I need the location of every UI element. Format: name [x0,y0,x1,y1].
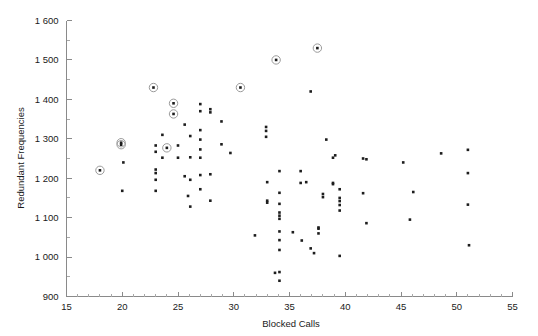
data-point [365,222,368,225]
data-point [317,232,320,235]
data-point [183,123,186,126]
data-point [309,247,312,250]
data-point [199,148,202,151]
data-point [278,211,281,214]
y-tick-label: 1 400 [35,94,59,105]
data-point [172,102,175,105]
data-point [166,147,169,150]
data-point [305,181,308,184]
data-point [154,168,157,171]
x-tick-label: 35 [284,301,295,312]
data-point [338,200,341,203]
data-point [292,231,295,234]
data-point [199,156,202,159]
data-point [362,157,365,160]
data-point [265,126,268,129]
data-point [402,161,405,164]
data-point [122,161,125,164]
x-axis-title: Blocked Calls [262,318,320,329]
data-point [189,205,192,208]
data-point [467,203,470,206]
y-axis-title: Redundant Frequencies [15,107,26,209]
data-point [266,181,269,184]
x-tick-label: 30 [228,301,239,312]
data-point [278,271,281,274]
data-point [334,154,337,157]
data-point [183,175,186,178]
data-point [209,173,212,176]
data-point [189,178,192,181]
data-point [154,178,157,181]
data-point [278,249,281,252]
data-point [338,255,341,258]
data-point [412,191,415,194]
y-tick-label: 1 300 [35,133,59,144]
scatter-plot-figure: 9001 0001 1001 2001 3001 4001 5001 600 1… [0,0,538,336]
data-point [316,47,319,50]
data-point [120,141,123,144]
data-point [177,156,180,159]
data-point [220,120,223,123]
ticks-group [67,21,513,297]
data-point [187,195,190,198]
data-point [266,201,269,204]
data-point [199,138,202,141]
data-point [409,218,412,221]
data-point [299,182,302,185]
data-point [278,192,281,195]
data-point [209,108,212,111]
data-point [199,188,202,191]
data-point [365,158,368,161]
data-point [468,244,471,247]
data-point [338,197,341,200]
data-point [189,135,192,138]
data-point [278,170,281,173]
data-point [199,110,202,113]
data-point [254,234,257,237]
data-point [278,214,281,217]
data-point [300,239,303,242]
data-point [278,218,281,221]
data-point [209,199,212,202]
data-point [220,143,223,146]
x-tick-label: 50 [451,301,462,312]
data-point [121,190,124,193]
data-point [467,149,470,152]
data-point [274,272,277,275]
data-point [309,90,312,93]
data-points-group [96,44,471,282]
data-point [161,156,164,159]
data-point [177,144,180,147]
data-point [154,172,157,175]
data-point [440,152,443,155]
x-tick-label: 20 [117,301,128,312]
y-tick-label: 900 [43,291,59,302]
data-point [161,134,164,137]
data-point [313,252,316,255]
data-point [278,230,281,233]
x-tick-label: 45 [396,301,407,312]
plot-canvas: 9001 0001 1001 2001 3001 4001 5001 600 1… [0,0,538,336]
x-tick-label: 55 [507,301,518,312]
data-point [239,86,242,89]
data-point [172,113,175,116]
data-point [362,192,365,195]
x-tick-label: 40 [340,301,351,312]
data-point [317,227,320,230]
y-tick-label: 1 500 [35,54,59,65]
data-point [265,130,268,133]
data-point [275,59,278,62]
data-point [338,188,341,191]
y-tick-label: 1 600 [35,15,59,26]
x-tick-label: 25 [173,301,184,312]
data-point [322,193,325,196]
y-tick-label: 1 200 [35,173,59,184]
data-point [265,136,268,139]
x-axis-tick-labels: 152025303540455055 [61,301,518,312]
data-point [278,239,281,242]
data-point [338,204,341,207]
y-axis-tick-labels: 9001 0001 1001 2001 3001 4001 5001 600 [35,15,59,302]
data-point [278,279,281,282]
data-point [278,203,281,206]
data-point [99,169,102,172]
